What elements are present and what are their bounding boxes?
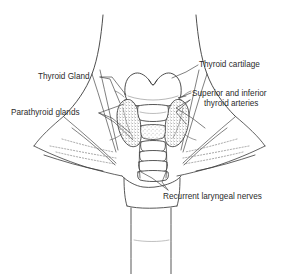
label-recurrent-laryngeal-nerves: Recurrent laryngeal nerves: [163, 192, 262, 202]
manubrium-sternum: [122, 176, 181, 274]
label-thyroid-arteries-line1: Superior and inferior: [192, 89, 267, 98]
label-thyroid-cartilage: Thyroid cartilage: [199, 60, 260, 70]
anatomy-figure: Thyroid cartilage Superior and inferiort…: [0, 0, 298, 274]
thyroid-isthmus: [141, 125, 166, 140]
tracheal-rings: [138, 141, 169, 182]
label-thyroid-arteries-line2: thyroid arteries: [192, 99, 267, 109]
label-parathyroid-glands: Parathyroid glands: [11, 108, 80, 118]
cricoid-cartilage: [138, 105, 169, 122]
label-thyroid-arteries: Superior and inferiorthyroid arteries: [192, 89, 267, 109]
thyroid-anatomy-illustration: [0, 0, 298, 274]
label-thyroid-gland: Thyroid Gland: [38, 72, 90, 82]
